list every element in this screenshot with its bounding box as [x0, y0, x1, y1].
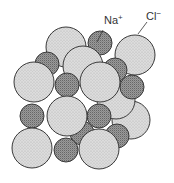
chloride-ion	[79, 129, 119, 169]
chloride-ion	[47, 96, 87, 136]
chloride-ion	[14, 62, 54, 102]
sodium-ion	[87, 104, 111, 128]
nacl-lattice-diagram: Na+ Cl−	[0, 0, 174, 183]
ion-group	[12, 27, 155, 169]
sodium-ion	[54, 138, 78, 162]
sodium-ion	[55, 73, 79, 97]
chloride-label: Cl−	[146, 9, 161, 22]
sodium-ion	[20, 104, 44, 128]
cl-leader-line	[138, 22, 147, 34]
sodium-label: Na+	[104, 13, 123, 26]
chloride-ion	[12, 128, 52, 168]
chloride-ion	[80, 62, 120, 102]
